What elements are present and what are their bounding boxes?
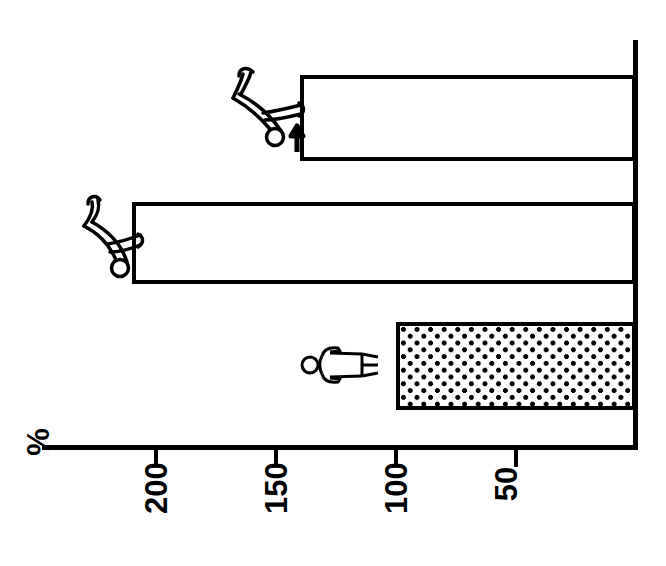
axis-unit-label: % <box>21 415 57 469</box>
bar-lifting-bent-back[interactable] <box>300 75 636 161</box>
person-lifting-bent-back-icon <box>213 60 313 160</box>
bar-chart: % 200 150 100 50 <box>0 0 666 566</box>
axis-tick-label-200: 200 <box>139 443 175 533</box>
person-standing-icon <box>300 325 400 405</box>
bar-lifting-straight-back[interactable] <box>132 202 636 284</box>
axis-tick-label-100: 100 <box>379 443 415 533</box>
axis-tick-label-150: 150 <box>259 443 295 533</box>
bar-standing-upright[interactable] <box>396 322 636 410</box>
axis-tick-label-50: 50 <box>489 449 525 519</box>
value-axis-line <box>42 445 638 450</box>
